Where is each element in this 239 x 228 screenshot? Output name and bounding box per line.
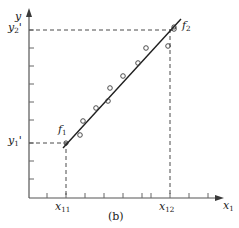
regression-line — [63, 19, 181, 148]
figure-caption: (b) — [108, 211, 124, 222]
point-label-f2: f2 — [182, 20, 191, 32]
y1-prime-mark: ' — [19, 134, 22, 147]
x-tick-label-x11: x11 — [55, 201, 70, 213]
scatter-point — [81, 119, 86, 124]
x-tick-label-x12: x12 — [159, 201, 174, 213]
y-tick-label-y2-prime: y2' — [8, 22, 22, 34]
x-axis-label-subscript: 1 — [229, 204, 234, 213]
f1-subscript: 1 — [62, 128, 67, 137]
x11-subscript: 11 — [61, 205, 70, 214]
y-axis-ticks — [29, 30, 34, 179]
y-axis-arrowhead — [26, 8, 32, 17]
y2-prime-mark: ' — [19, 21, 22, 34]
scatter-points — [78, 27, 177, 138]
point-label-f1: f1 — [58, 124, 67, 136]
scatter-point — [78, 133, 83, 138]
scatter-point — [121, 74, 126, 79]
y-tick-label-y1-prime: y1' — [8, 135, 22, 147]
scatter-plot-svg — [0, 0, 239, 228]
scatter-point — [136, 61, 141, 66]
x-axis-label: x1 — [223, 200, 234, 212]
scatter-point — [144, 46, 149, 51]
x-axis-ticks — [47, 193, 208, 198]
figure-container: y x1 y2' y1' x11 x12 f1 f2 (b) — [0, 0, 239, 228]
f2-subscript: 2 — [186, 24, 191, 33]
scatter-point — [94, 106, 99, 111]
scatter-point — [108, 86, 113, 91]
x12-subscript: 12 — [165, 205, 174, 214]
